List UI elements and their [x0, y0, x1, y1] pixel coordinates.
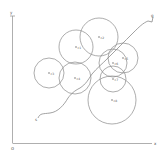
obstacle-label-c1: c1	[78, 46, 82, 50]
diagram-canvas: y x o c1c2c3c4c5c6c7c8 s g	[0, 0, 166, 153]
obstacle-label-c7: c7	[115, 78, 119, 82]
x-axis-label: x	[154, 141, 157, 146]
obstacle-label-c2: c2	[101, 36, 105, 40]
obstacle-label-c6: c6	[115, 62, 119, 66]
obstacle-label-c3: c3	[51, 72, 55, 76]
obstacle-label-c4: c4	[77, 77, 81, 81]
obstacle-label-c8: c8	[114, 99, 118, 103]
goal-label: g	[151, 13, 154, 18]
origin-label: o	[11, 145, 14, 151]
y-axis-label: y	[10, 10, 13, 15]
obstacles: c1c2c3c4c5c6c7c8	[34, 18, 138, 124]
start-label: s	[35, 117, 37, 122]
